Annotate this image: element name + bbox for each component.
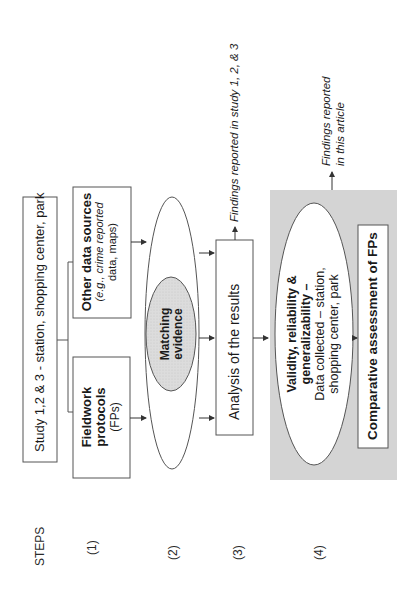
findings-article-line2: in this article	[333, 77, 347, 167]
comparative-text: Comparative assessment of FPs	[365, 232, 380, 440]
diagram-canvas	[0, 0, 416, 600]
fieldwork-subtitle: (FPs)	[108, 364, 122, 470]
other-sources-sub1: (e.g., crime reported	[93, 202, 105, 301]
matching-evidence-text: Matching evidence	[159, 298, 185, 370]
validity-line1: Validity, reliability &	[285, 254, 299, 414]
other-sources-text: Other data sources (e.g., crime reported…	[80, 190, 119, 314]
step-4-label: (4)	[312, 545, 326, 560]
steps-header: STEPS	[33, 527, 47, 566]
fieldwork-text: Fieldwork protocols (FPs)	[80, 364, 122, 470]
other-sources-sub2: data, maps)	[106, 190, 119, 314]
validity-line2: generalizability –	[299, 254, 313, 414]
step-1-label: (1)	[85, 540, 99, 555]
analysis-text: Analysis of the results	[226, 284, 242, 420]
step-2-label: (2)	[166, 545, 180, 560]
step-3-label: (3)	[231, 545, 245, 560]
findings-study-text: Findings reported in study 1, 2, & 3	[228, 44, 240, 222]
other-sources-title: Other data sources	[80, 190, 93, 314]
findings-article-line1: Findings reported	[319, 77, 333, 167]
matching-line2: evidence	[172, 298, 185, 370]
validity-line4: shopping center, park	[327, 254, 341, 414]
fieldwork-title-1: Fieldwork	[80, 364, 94, 470]
fieldwork-title-2: protocols	[94, 364, 108, 470]
study-box-text: Study 1,2 & 3 - station, shopping center…	[32, 193, 47, 452]
validity-line3: Data collected – station,	[313, 254, 327, 414]
findings-article-text: Findings reported in this article	[319, 77, 347, 167]
validity-text: Validity, reliability & generalizability…	[285, 254, 341, 414]
